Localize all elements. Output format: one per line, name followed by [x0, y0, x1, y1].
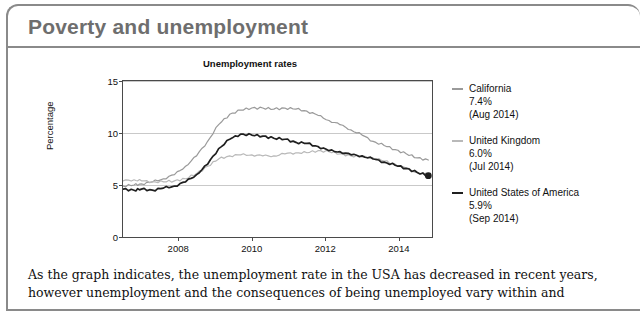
y-axis-tick-label: 5 [113, 180, 118, 191]
x-axis-tick-mark [399, 237, 400, 241]
legend-series-name: United Kingdom [469, 134, 540, 147]
legend-row: United States of America5.9%(Sep 2014) [452, 186, 627, 225]
legend-swatch-icon [452, 140, 463, 142]
x-axis-tick-mark [178, 237, 179, 241]
legend-text: California7.4%(Aug 2014) [469, 82, 518, 121]
legend-row: California7.4%(Aug 2014) [452, 82, 627, 121]
legend-item[interactable]: California7.4%(Aug 2014) [452, 82, 627, 121]
legend-row: United Kingdom6.0%(Jul 2014) [452, 134, 627, 173]
legend-item[interactable]: United States of America5.9%(Sep 2014) [452, 186, 627, 225]
y-axis-tick-label: 15 [107, 76, 118, 87]
legend-series-date: (Aug 2014) [469, 108, 518, 121]
legend-item[interactable]: United Kingdom6.0%(Jul 2014) [452, 134, 627, 173]
x-axis-tick-label: 2012 [315, 243, 336, 254]
body-line-1: As the graph indicates, the unemployment… [28, 266, 618, 284]
card-header: Poverty and unemployment [6, 4, 640, 48]
legend-series-value: 7.4% [469, 95, 518, 108]
legend-series-date: (Sep 2014) [469, 212, 579, 225]
series-line [123, 150, 428, 182]
x-axis-tick-label: 2008 [168, 243, 189, 254]
series-line [123, 134, 428, 191]
chart-legend: California7.4%(Aug 2014)United Kingdom6.… [452, 82, 627, 238]
y-axis-label: Percentage [44, 101, 55, 150]
series-canvas [123, 81, 432, 237]
series-end-marker [425, 172, 432, 179]
legend-text: United States of America5.9%(Sep 2014) [469, 186, 579, 225]
y-axis-tick-label: 10 [107, 128, 118, 139]
legend-text: United Kingdom6.0%(Jul 2014) [469, 134, 540, 173]
legend-series-name: California [469, 82, 518, 95]
body-paragraph: As the graph indicates, the unemployment… [28, 266, 618, 302]
y-axis-tick-label: 0 [113, 232, 118, 243]
legend-series-date: (Jul 2014) [469, 160, 540, 173]
x-axis-tick-mark [252, 237, 253, 241]
y-axis-tick-mark [119, 237, 123, 238]
legend-swatch-icon [452, 88, 463, 90]
legend-series-name: United States of America [469, 186, 579, 199]
x-axis-tick-label: 2010 [241, 243, 262, 254]
chart-container: Unemployment rates Percentage 0510152008… [60, 58, 450, 258]
x-axis-tick-mark [325, 237, 326, 241]
body-line-2: however unemployment and the consequence… [28, 284, 618, 302]
chart-title: Unemployment rates [60, 58, 440, 69]
legend-series-value: 6.0% [469, 147, 540, 160]
page-title: Poverty and unemployment [28, 15, 308, 39]
series-line [123, 107, 428, 187]
plot-area: 0510152008201020122014 [122, 80, 433, 238]
legend-swatch-icon [452, 192, 463, 194]
legend-series-value: 5.9% [469, 199, 579, 212]
x-axis-tick-label: 2014 [388, 243, 409, 254]
